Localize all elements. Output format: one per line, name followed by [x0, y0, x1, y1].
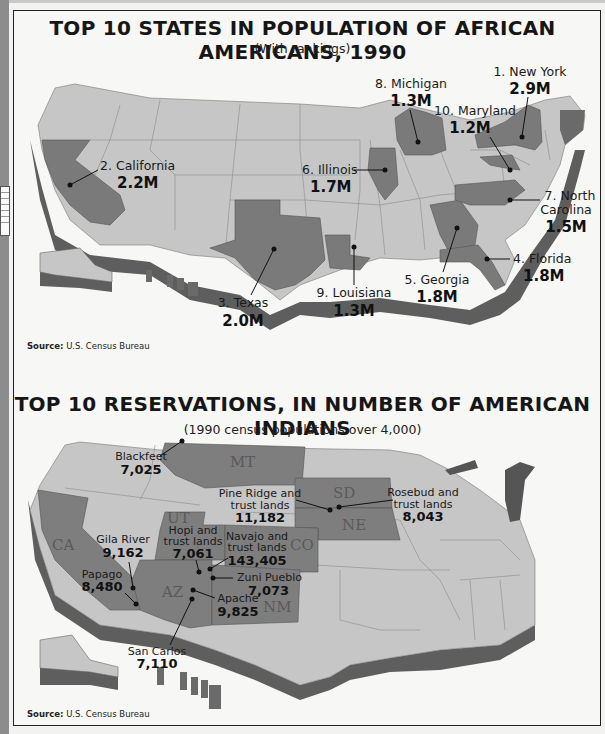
new-york-label: 1. New York — [493, 64, 567, 79]
north-carolina-label-1: 7. North — [545, 188, 596, 203]
papago-value: 8,480 — [81, 579, 122, 594]
abbr-sd: SD — [333, 484, 355, 502]
illinois-label: 6. Illinois — [302, 162, 358, 177]
hopi-value: 7,061 — [172, 546, 213, 561]
florida-value: 1.8M — [523, 267, 565, 285]
gila-river-value: 9,162 — [102, 545, 143, 560]
apache-value: 9,825 — [217, 604, 258, 619]
navajo-value: 143,405 — [227, 553, 286, 568]
louisiana-value: 1.3M — [333, 302, 375, 320]
map2-source-label: Source: — [27, 709, 63, 719]
louisiana-label: 9. Louisiana — [317, 285, 392, 300]
georgia-value: 1.8M — [416, 288, 458, 306]
lake-superior — [445, 460, 478, 475]
texas-value: 2.0M — [222, 312, 264, 330]
texas-label: 3. Texas — [218, 295, 268, 310]
abbr-nm: NM — [263, 598, 291, 616]
california-label: 2. California — [100, 158, 175, 173]
abbr-ne: NE — [342, 516, 366, 534]
map1-source-label: Source: — [27, 341, 63, 351]
hawaii-2 — [157, 667, 221, 709]
georgia-label: 5. Georgia — [405, 272, 470, 287]
rosebud-value: 8,043 — [402, 509, 443, 524]
michigan-value: 1.3M — [390, 92, 432, 110]
map1-svg: 1. New York 2.9M 2. California 2.2M 3. T… — [0, 50, 605, 350]
illinois-value: 1.7M — [310, 178, 352, 196]
map2-source: Source: U.S. Census Bureau — [27, 709, 150, 719]
abbr-co: CO — [290, 536, 314, 554]
map1-us-map — [30, 84, 585, 330]
new-york-value: 2.9M — [509, 80, 551, 98]
north-carolina-value: 1.5M — [545, 218, 587, 236]
map1-source: Source: U.S. Census Bureau — [27, 341, 150, 351]
blackfeet-value: 7,025 — [120, 462, 161, 477]
north-carolina-label-2: Carolina — [540, 202, 591, 217]
california-value: 2.2M — [117, 174, 159, 192]
new-england-coast — [560, 110, 585, 145]
abbr-az: AZ — [161, 583, 183, 601]
maryland-value: 1.2M — [449, 119, 491, 137]
map1-source-text: U.S. Census Bureau — [66, 341, 150, 351]
florida-label: 4. Florida — [513, 251, 571, 266]
abbr-mt: MT — [230, 453, 255, 471]
maryland-label: 10. Maryland — [434, 103, 516, 118]
michigan-label: 8. Michigan — [375, 76, 447, 91]
lake-michigan — [505, 462, 535, 522]
map2-source-text: U.S. Census Bureau — [66, 709, 150, 719]
san-carlos-value: 7,110 — [136, 656, 177, 671]
pine-ridge-value: 11,182 — [235, 510, 285, 525]
top-rule — [9, 0, 605, 3]
abbr-ca: CA — [52, 536, 74, 554]
map2-svg: MT SD NE UT CO CA AZ NM Blackfeet 7,025 … — [0, 430, 605, 730]
